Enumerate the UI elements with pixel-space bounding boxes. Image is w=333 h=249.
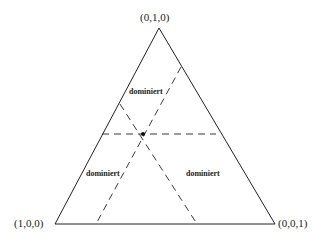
vertex-label-bottom-left: (1,0,0) (14, 217, 43, 229)
simplex-diagram (0, 0, 333, 249)
simplex-triangle (55, 28, 275, 224)
intersection-point (141, 132, 145, 136)
region-label-lower-right: dominiert (186, 169, 220, 178)
vertex-label-bottom-right: (0,0,1) (278, 217, 307, 229)
diagram-canvas: (0,1,0) (1,0,0) (0,0,1) dominiert domini… (0, 0, 333, 249)
vertex-label-top: (0,1,0) (140, 11, 169, 23)
dashed-line-parallel-right-edge (120, 104, 197, 224)
region-label-upper: dominiert (129, 87, 163, 96)
region-label-lower-left: dominiert (86, 169, 120, 178)
